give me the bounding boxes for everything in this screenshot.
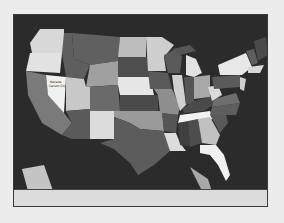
- state-nebraska: [118, 77, 154, 95]
- state-new-mexico: [90, 111, 114, 139]
- state-new-york: [218, 53, 252, 75]
- state-ohio: [194, 75, 210, 99]
- base-strip: [14, 189, 267, 206]
- state-florida: [200, 145, 230, 181]
- state-kansas: [120, 95, 158, 111]
- state-montana: [72, 33, 120, 65]
- map-frame: Nevada Carson City: [13, 14, 268, 207]
- label-nevada-sub: Carson City: [49, 84, 67, 88]
- state-oregon: [26, 53, 62, 73]
- state-washington: [30, 29, 64, 53]
- state-utah: [66, 77, 90, 111]
- state-arkansas: [162, 113, 178, 133]
- state-new-jersey: [240, 77, 246, 91]
- state-indiana: [184, 77, 194, 105]
- state-iowa: [148, 71, 172, 89]
- state-north-dakota: [118, 37, 146, 57]
- us-state-puzzle-map: Nevada Carson City: [14, 15, 268, 207]
- state-colorado: [90, 85, 120, 111]
- state-michigan: [186, 55, 202, 77]
- state-wyoming: [86, 61, 118, 87]
- state-south-dakota: [118, 57, 148, 77]
- state-pennsylvania: [212, 75, 240, 89]
